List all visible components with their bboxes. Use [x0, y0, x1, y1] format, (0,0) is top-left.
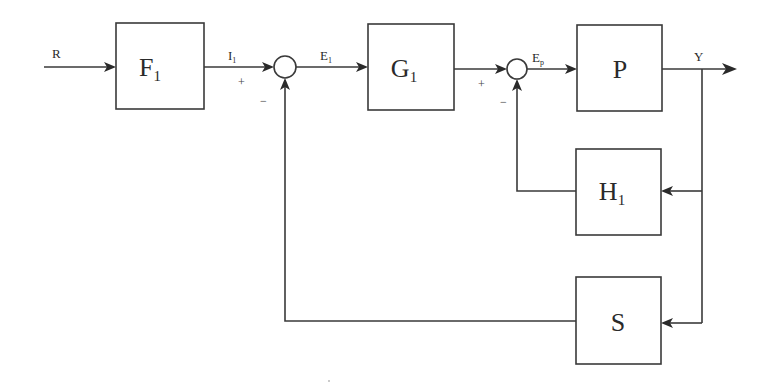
block-g1-sub: 1 [410, 69, 418, 85]
summing-junction-1 [274, 56, 296, 78]
signal-i1-sub: 1 [232, 56, 236, 65]
edge-g1-to-sum2 [454, 64, 507, 74]
signal-ep-sub: p [540, 58, 544, 67]
diagram-canvas: F1 G1 P H1 S [0, 0, 768, 385]
block-p: P [577, 25, 662, 111]
block-p-label: P [613, 55, 627, 84]
block-h1: H1 [576, 149, 661, 235]
block-f1: F1 [116, 23, 204, 109]
signal-e1-sub: 1 [328, 56, 332, 65]
block-f1-sub: 1 [153, 68, 161, 84]
edge-p-to-output [662, 63, 737, 75]
block-h1-label: H [599, 177, 618, 206]
summing-junction-2 [507, 59, 527, 79]
signal-ep-label: E [532, 50, 540, 65]
block-diagram: F1 G1 P H1 S [0, 0, 768, 385]
edge-s-to-sum1 [280, 78, 576, 321]
block-f1-label: F [139, 53, 153, 82]
edge-y-to-s [661, 318, 702, 328]
edge-r-to-f1 [44, 62, 116, 72]
signal-ep: Ep [532, 50, 544, 67]
signal-e1-label: E [320, 48, 328, 63]
block-h1-sub: 1 [618, 192, 626, 208]
edge-sum2-to-p [527, 64, 577, 74]
edge-h1-to-sum2 [512, 79, 576, 191]
edge-y-to-h1 [661, 186, 702, 196]
block-g1: G1 [368, 24, 454, 110]
sum2-plus-sign: + [478, 77, 485, 91]
sum1-plus-sign: + [238, 75, 245, 89]
edge-f1-to-sum1 [204, 62, 274, 72]
stray-mark [328, 380, 330, 382]
signal-i1: I1 [228, 48, 236, 65]
block-s: S [576, 277, 661, 364]
signal-e1: E1 [320, 48, 332, 65]
block-g1-label: G [391, 54, 410, 83]
signal-y-label: Y [694, 49, 704, 64]
edge-sum1-to-g1 [296, 62, 368, 72]
sum2-minus-sign: − [500, 95, 507, 109]
signal-r-label: R [52, 46, 61, 61]
block-s-label: S [611, 308, 625, 337]
sum1-minus-sign: − [260, 94, 267, 108]
